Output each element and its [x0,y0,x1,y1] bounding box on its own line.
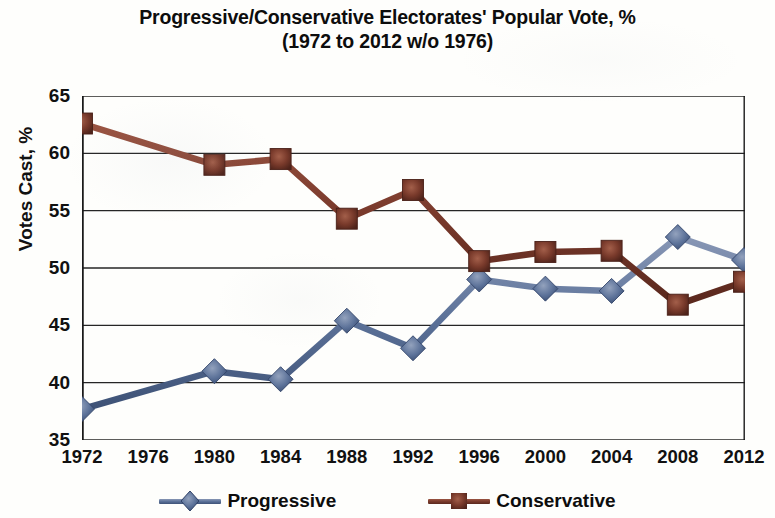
legend-label-conservative: Conservative [496,490,615,512]
x-tick-label-2000: 2000 [510,446,580,468]
chart-title: Progressive/Conservative Electorates' Po… [0,6,775,30]
y-tick-label-50: 50 [24,257,70,279]
chart-figure: Progressive/Conservative Electorates' Po… [0,0,775,518]
legend-key-diamond-icon [159,491,221,511]
legend-key-square-icon [428,491,490,511]
x-tick-label-1980: 1980 [179,446,249,468]
data-point-conservative-2000 [535,241,556,262]
series-line-conservative [82,124,744,305]
legend-item-conservative: Conservative [428,490,615,512]
y-tick-label-45: 45 [24,314,70,336]
x-tick-label-2004: 2004 [577,446,647,468]
grid-lines [82,96,745,440]
plot-svg [82,96,745,440]
x-axis-ticks: 1972197619801984198819921996200020042008… [0,446,775,472]
x-tick-label-2008: 2008 [643,446,713,468]
data-point-conservative-1996 [469,251,490,272]
data-point-conservative-1984 [270,149,291,170]
x-tick-label-1972: 1972 [47,446,117,468]
x-tick-label-2012: 2012 [709,446,775,468]
chart-subtitle: (1972 to 2012 w/o 1976) [0,30,775,54]
data-point-progressive-1972 [82,397,95,422]
data-point-conservative-2008 [667,294,688,315]
x-tick-label-1976: 1976 [113,446,183,468]
data-point-progressive-2012 [732,247,746,272]
chart-legend: Progressive Conservative [0,486,775,516]
plot-area [82,96,745,440]
data-point-conservative-1992 [403,180,424,201]
x-tick-label-1988: 1988 [312,446,382,468]
y-tick-label-40: 40 [24,372,70,394]
y-tick-label-65: 65 [24,85,70,107]
data-point-progressive-1980 [202,359,227,384]
chart-title-block: Progressive/Conservative Electorates' Po… [0,6,775,54]
x-tick-label-1984: 1984 [246,446,316,468]
data-point-conservative-2012 [734,271,746,292]
y-axis-ticks: 35404550556065 [16,96,70,440]
y-tick-label-55: 55 [24,200,70,222]
x-tick-label-1996: 1996 [444,446,514,468]
data-point-conservative-1972 [82,113,93,134]
data-point-progressive-2000 [533,276,558,301]
x-tick-label-1992: 1992 [378,446,448,468]
data-point-conservative-2004 [601,240,622,261]
legend-item-progressive: Progressive [159,490,336,512]
data-series-layer [82,113,745,422]
legend-label-progressive: Progressive [227,490,336,512]
data-point-conservative-1980 [204,154,225,175]
data-point-conservative-1988 [336,208,357,229]
y-tick-label-60: 60 [24,142,70,164]
